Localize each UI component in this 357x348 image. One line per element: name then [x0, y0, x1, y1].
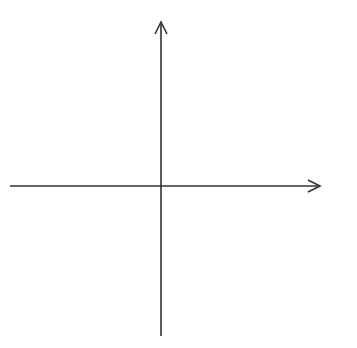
coordinate-plane: [0, 0, 357, 348]
